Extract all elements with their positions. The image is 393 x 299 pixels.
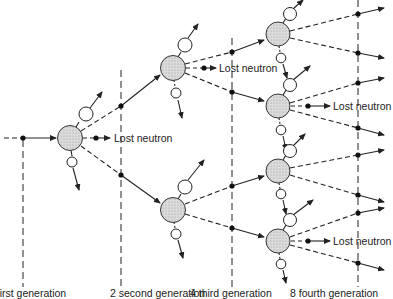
nucleus-gen3-b: [266, 94, 290, 118]
nucleus-gen3-a: [266, 22, 290, 46]
generation-label-1: 1 first generation: [0, 288, 66, 299]
nucleus-gen3-d: [266, 229, 290, 253]
nucleus-gen3-c: [266, 159, 290, 183]
lost-neutron-label: Lost neutron: [114, 133, 172, 144]
generation-label-4: 8 fourth generation: [290, 288, 378, 299]
lost-neutron-label: Lost neutron: [333, 236, 391, 247]
lost-neutron-label: Lost neutron: [333, 101, 391, 112]
lost-neutron-label: Lost neutron: [219, 63, 277, 74]
nucleus-gen1: [58, 126, 83, 151]
nucleus-gen2-a: [161, 56, 186, 81]
nucleus-gen2-b: [161, 198, 186, 223]
generation-label-3: 4 third generation: [190, 288, 272, 299]
